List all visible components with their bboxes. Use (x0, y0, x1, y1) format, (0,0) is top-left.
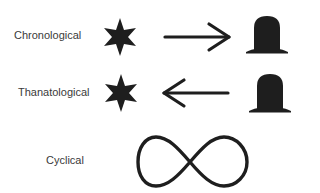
left-arrow-icon (164, 80, 228, 106)
hat-icon (249, 74, 291, 113)
infinity-icon (138, 137, 247, 186)
star-icon (105, 74, 137, 112)
star-icon (104, 18, 136, 56)
right-arrow-icon (165, 24, 229, 50)
hat-icon (246, 16, 288, 54)
